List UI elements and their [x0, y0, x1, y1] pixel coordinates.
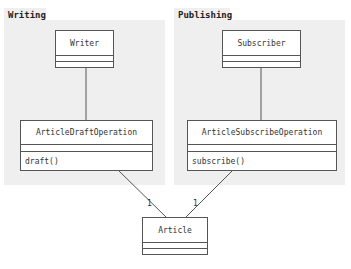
operations-compartment — [143, 249, 207, 254]
class-writer[interactable]: Writer — [55, 30, 114, 68]
class-article-draft-operation[interactable]: ArticleDraftOperation draft() — [20, 120, 153, 171]
class-name: Article — [143, 218, 207, 243]
association-draftop-article — [118, 170, 166, 217]
attributes-compartment — [21, 145, 152, 152]
operations-compartment: subscribe() — [188, 152, 336, 170]
multiplicity-subscribeop-article: 1 — [193, 199, 198, 208]
association-subscribeop-article — [186, 170, 233, 217]
operations-compartment: draft() — [21, 152, 152, 170]
class-name: Subscriber — [223, 31, 300, 56]
class-name: Writer — [56, 31, 113, 56]
operation-subscribe: subscribe() — [192, 157, 245, 166]
class-name: ArticleDraftOperation — [21, 121, 152, 145]
class-name: ArticleSubscribeOperation — [188, 121, 336, 145]
class-article[interactable]: Article — [142, 217, 208, 255]
operations-compartment — [223, 62, 300, 67]
multiplicity-draftop-article: 1 — [147, 199, 152, 208]
class-subscriber[interactable]: Subscriber — [222, 30, 301, 68]
operation-draft: draft() — [25, 157, 59, 166]
class-article-subscribe-operation[interactable]: ArticleSubscribeOperation subscribe() — [187, 120, 337, 171]
attributes-compartment — [188, 145, 336, 152]
operations-compartment — [56, 62, 113, 67]
